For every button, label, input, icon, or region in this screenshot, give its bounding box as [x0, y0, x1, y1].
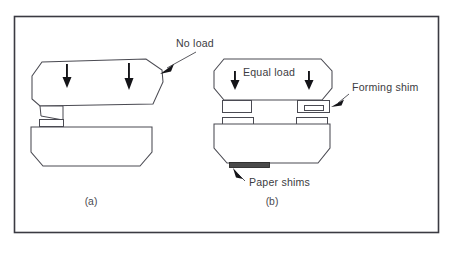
- no-load-label: No load: [176, 37, 214, 49]
- die-shimming-diagram: (a) Equal load: [0, 0, 456, 257]
- shim-a: [40, 120, 64, 127]
- forming-shim-label: Forming shim: [352, 81, 419, 93]
- caption-panel-a: (a): [85, 196, 98, 207]
- figure-root: (a) Equal load: [0, 0, 456, 257]
- equal-load-label: Equal load: [243, 66, 295, 78]
- paper-shims: [230, 163, 270, 168]
- lower-die-b: [214, 124, 330, 163]
- contact-block-b-left: [223, 101, 252, 113]
- shim-b-left: [223, 118, 254, 125]
- paper-shims-label: Paper shims: [249, 176, 310, 188]
- lower-die-a: [31, 127, 152, 166]
- upper-die-a: [32, 59, 163, 106]
- caption-panel-b: (b): [266, 196, 279, 207]
- shim-b-right: [297, 118, 328, 125]
- forming-shim: [305, 106, 324, 111]
